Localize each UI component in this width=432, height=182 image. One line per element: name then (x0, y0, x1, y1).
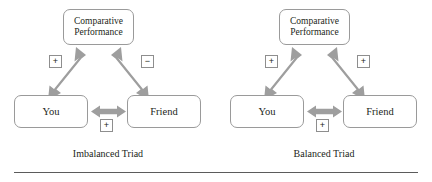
node-friend-label: Friend (366, 106, 393, 118)
node-you-label: You (258, 106, 275, 118)
arrow-you-friend (307, 106, 342, 118)
sign-friend-performance: − (141, 55, 154, 68)
sign-you-performance-label: + (53, 57, 58, 66)
sign-you-friend: + (100, 119, 113, 132)
node-you: You (14, 95, 88, 128)
sign-you-performance-label: + (269, 57, 274, 66)
caption-imbalanced-triad: Imbalanced Triad (0, 148, 216, 159)
node-comparative-performance: Comparative Performance (63, 9, 134, 45)
node-comparative-performance-label: Comparative Performance (74, 16, 123, 37)
sign-friend-performance-label: − (145, 57, 150, 66)
sign-you-friend: + (316, 119, 329, 132)
bottom-divider (14, 172, 418, 173)
panel-imbalanced-triad: Comparative Performance You Friend + − +… (0, 0, 216, 182)
node-comparative-performance-label: Comparative Performance (290, 16, 339, 37)
panel-balanced-triad: Comparative Performance You Friend + + +… (216, 0, 432, 182)
node-you-label: You (42, 106, 59, 118)
sign-friend-performance: + (357, 55, 370, 68)
sign-friend-performance-label: + (361, 57, 366, 66)
node-comparative-performance: Comparative Performance (279, 9, 350, 45)
node-friend-label: Friend (150, 106, 177, 118)
sign-you-performance: + (265, 55, 278, 68)
sign-you-friend-label: + (320, 121, 325, 130)
node-friend: Friend (127, 95, 201, 128)
triad-figure: Comparative Performance You Friend + − +… (0, 0, 432, 182)
node-friend: Friend (343, 95, 417, 128)
sign-you-performance: + (49, 55, 62, 68)
sign-you-friend-label: + (104, 121, 109, 130)
node-you: You (230, 95, 304, 128)
arrow-you-friend (91, 106, 126, 118)
caption-balanced-triad: Balanced Triad (216, 148, 432, 159)
